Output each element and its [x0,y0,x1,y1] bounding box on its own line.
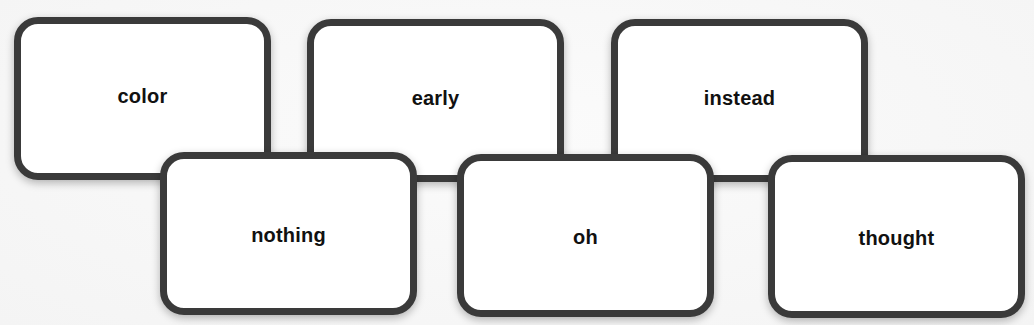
diagram-canvas: color early instead nothing oh thought [0,0,1034,325]
card-label: early [412,87,460,110]
card-label: instead [704,87,775,110]
word-card-nothing[interactable]: nothing [160,152,417,315]
card-label: oh [573,226,598,249]
word-card-oh[interactable]: oh [457,154,714,317]
card-label: thought [859,227,935,250]
card-label: nothing [251,224,326,247]
card-label: color [118,85,168,108]
word-card-thought[interactable]: thought [768,155,1025,318]
